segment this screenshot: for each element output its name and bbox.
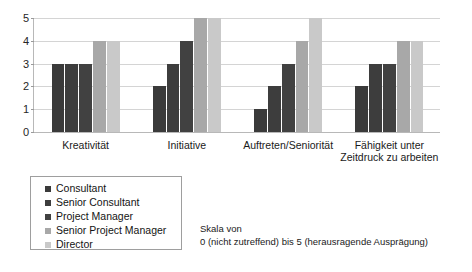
bar[interactable] (254, 109, 267, 132)
y-tickmark-5 (31, 18, 34, 19)
bar-group: Auftreten/Seniorität (238, 18, 339, 132)
legend-item[interactable]: Consultant (45, 182, 181, 195)
x-axis-category-label: Fähigkeit unter Zeitdruck zu arbeiten (324, 139, 454, 163)
bar[interactable] (355, 86, 368, 132)
legend-swatch-icon (45, 228, 51, 234)
y-tickmark-4 (31, 41, 34, 42)
legend-swatch-icon (45, 242, 51, 248)
bar[interactable] (282, 64, 295, 132)
legend-swatch-icon (45, 200, 51, 206)
bar[interactable] (153, 86, 166, 132)
bar-chart: 5 4 3 2 1 0 KreativitätInitiativeAuftret… (0, 0, 472, 165)
plot-area: 5 4 3 2 1 0 KreativitätInitiativeAuftret… (33, 18, 440, 133)
bar[interactable] (93, 41, 106, 132)
legend-item[interactable]: Senior Project Manager (45, 224, 181, 237)
bar-cluster (153, 18, 221, 132)
bar-cluster (254, 18, 322, 132)
legend-item-label: Consultant (56, 183, 106, 194)
y-axis-tick-label: 5 (3, 13, 29, 24)
y-tickmark-3 (31, 64, 34, 65)
y-axis-tick-label: 2 (3, 81, 29, 92)
legend-swatch-icon (45, 186, 51, 192)
legend-item[interactable]: Project Manager (45, 210, 181, 223)
bar[interactable] (411, 41, 424, 132)
legend-item[interactable]: Senior Consultant (45, 196, 181, 209)
bar[interactable] (194, 18, 207, 132)
bar[interactable] (383, 64, 396, 132)
bar[interactable] (52, 64, 65, 132)
chart-legend: ConsultantSenior ConsultantProject Manag… (30, 176, 182, 250)
scale-annotation: Skala von 0 (nicht zutreffend) bis 5 (he… (200, 222, 428, 248)
bar-group: Fähigkeit unter Zeitdruck zu arbeiten (339, 18, 440, 132)
bar-cluster (355, 18, 423, 132)
bar[interactable] (309, 18, 322, 132)
bar[interactable] (180, 41, 193, 132)
y-axis-tick-label: 3 (3, 58, 29, 69)
y-tickmark-1 (31, 109, 34, 110)
y-axis-tick-label: 4 (3, 35, 29, 46)
legend-swatch-icon (45, 214, 51, 220)
bar[interactable] (79, 64, 92, 132)
bar[interactable] (167, 64, 180, 132)
legend-item-label: Project Manager (56, 211, 133, 222)
y-tickmark-2 (31, 86, 34, 87)
bar[interactable] (208, 18, 221, 132)
y-tickmark-0 (31, 132, 34, 133)
bar-group: Kreativität (35, 18, 136, 132)
bar-cluster (52, 18, 120, 132)
bar[interactable] (369, 64, 382, 132)
bar[interactable] (268, 86, 281, 132)
legend-item[interactable]: Director (45, 238, 181, 251)
bar-group: Initiative (136, 18, 237, 132)
legend-item-label: Senior Consultant (56, 197, 139, 208)
y-axis-tick-label: 0 (3, 127, 29, 138)
bar[interactable] (65, 64, 78, 132)
bar[interactable] (397, 41, 410, 132)
y-axis-tick-label: 1 (3, 104, 29, 115)
bar[interactable] (107, 41, 120, 132)
legend-item-label: Director (56, 239, 93, 250)
bar[interactable] (296, 41, 309, 132)
bar-groups: KreativitätInitiativeAuftreten/Senioritä… (35, 18, 440, 132)
legend-item-label: Senior Project Manager (56, 225, 166, 236)
